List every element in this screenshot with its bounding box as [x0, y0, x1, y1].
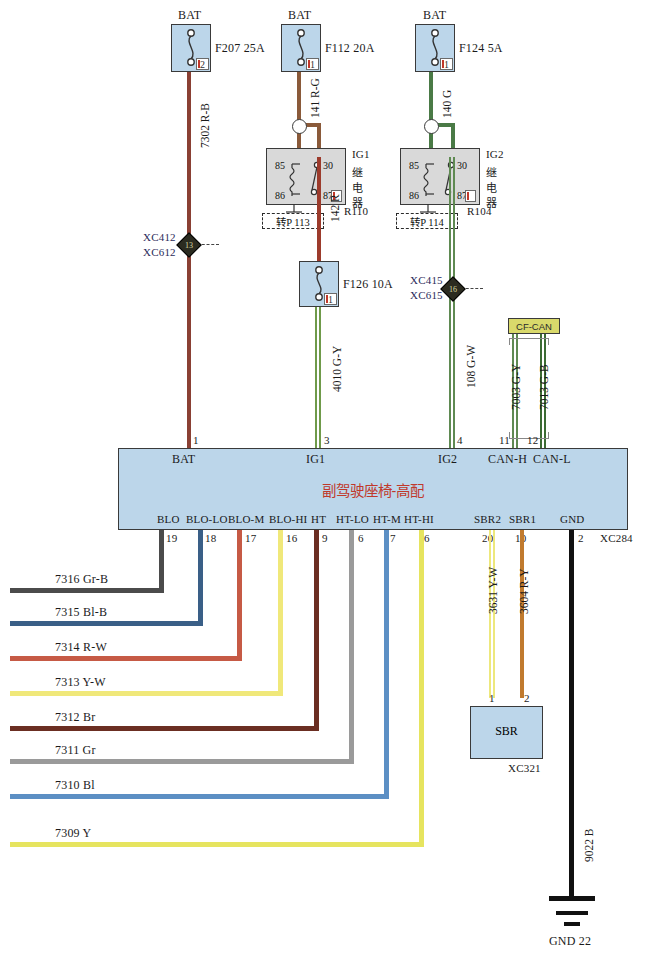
top-signal-CAN-L: CAN-L	[533, 452, 571, 467]
relay-IG1-id: R110	[344, 205, 368, 217]
wire-108-label: 108 G-W	[465, 345, 477, 388]
wire-4010-label: 4010 G-Y	[331, 346, 343, 392]
can-twist-bracket-top	[509, 338, 549, 345]
bottom-signal-BLO-M: BLO-M	[228, 513, 264, 525]
relay-IG1-name: IG1	[352, 148, 370, 160]
wire-7310-horiz	[10, 794, 389, 799]
fuse-3-source: BAT	[423, 8, 446, 23]
svg-text:86: 86	[409, 190, 419, 201]
wire-3604	[520, 530, 524, 698]
splice-1-bottom-label: XC612	[143, 246, 176, 258]
can-bus-box[interactable]: CF-CAN	[508, 318, 560, 334]
fuse-F207-pin: 2	[200, 59, 205, 70]
wire-7313-horiz	[10, 691, 283, 696]
relay-IG2-ref: 转P 114	[410, 214, 443, 229]
bottom-signal-SBR2: SBR2	[474, 513, 501, 525]
wiring-diagram-canvas: BAT 2 F207 25A 7302 R-B XC412 XC612 13 B…	[0, 0, 646, 955]
fuse-F124-pin: 1	[444, 59, 449, 70]
bottom-pin-17: 17	[245, 532, 256, 544]
wire-7302-label: 7302 R-B	[199, 103, 211, 148]
bottom-pin-HTHI: 6	[424, 532, 430, 544]
splice-2-diamond[interactable]: 16	[440, 276, 465, 301]
bottom-signal-SBR1: SBR1	[509, 513, 536, 525]
wire-4010-a	[315, 307, 317, 448]
ground-bar-1	[549, 896, 595, 901]
bottom-signal-HT-HI: HT-HI	[404, 513, 434, 525]
module-connector-id: XC284	[600, 532, 633, 544]
bottom-pin-HTM: 7	[390, 532, 396, 544]
sbr-pin-1-number: 1	[489, 692, 495, 704]
wire-7316-label: 7316 Gr-B	[55, 572, 108, 587]
wire-7313-label: 7313 Y-W	[55, 675, 106, 690]
top-pin-4-number: 4	[457, 434, 463, 446]
top-signal-IG1: IG1	[306, 452, 325, 467]
bottom-pin-16: 16	[286, 532, 297, 544]
bottom-pin-HTLO: 6	[358, 532, 364, 544]
wire-140-G-vertical	[429, 72, 433, 157]
sbr-module-label: SBR	[470, 724, 543, 739]
wire-7315-label: 7315 Bl-B	[55, 605, 107, 620]
top-signal-BAT: BAT	[172, 452, 195, 467]
wire-7312-label: 7312 Br	[55, 710, 95, 725]
wire-7302-R-B	[187, 72, 191, 448]
top-signal-CAN-H: CAN-H	[488, 452, 527, 467]
bottom-signal-BLO: BLO	[157, 513, 180, 525]
top-pin-12-number: 12	[527, 434, 538, 446]
wire-140-label: 140 G	[441, 90, 453, 118]
bottom-signal-BLO-LO: BLO-LO	[186, 513, 228, 525]
fuse-F112-label: F112 20A	[325, 41, 375, 56]
fuse-F124-label: F124 5A	[459, 41, 503, 56]
splice-2-top-label: XC415	[410, 274, 443, 286]
wire-7309-vert	[419, 530, 424, 847]
relay-IG2-id: R104	[467, 205, 492, 217]
svg-text:86: 86	[275, 190, 285, 201]
relay-IG1-ref: 转P 113	[276, 214, 309, 229]
bottom-signal-HT: HT	[311, 513, 326, 525]
relay-IG2-cn-2: 电	[486, 179, 497, 195]
sbr-pin-2-number: 2	[524, 692, 530, 704]
svg-text:30: 30	[457, 160, 467, 171]
bottom-signal-HT-LO: HT-LO	[336, 513, 369, 525]
svg-text:30: 30	[323, 160, 333, 171]
splice-1-diamond[interactable]: 13	[176, 232, 201, 257]
fuse-F207-label: F207 25A	[215, 41, 265, 56]
ground-bar-2	[556, 911, 588, 915]
ground-label: GND 22	[549, 934, 591, 949]
bottom-pin-18: 18	[205, 532, 216, 544]
wire-3631-label: 3631 Y-W	[487, 567, 499, 614]
bottom-signal-HT-M: HT-M	[373, 513, 401, 525]
bottom-signal-BLO-HI: BLO-HI	[269, 513, 307, 525]
module-title: 副驾驶座椅-高配	[118, 479, 628, 500]
wire-9022-B	[569, 530, 574, 900]
fuse-2-source: BAT	[288, 8, 311, 23]
splice-1-number: 13	[181, 237, 197, 253]
relay-IG2-name: IG2	[486, 148, 504, 160]
wire-7310-vert	[384, 530, 389, 799]
relay-IG2-cn-1: 继	[486, 164, 497, 180]
can-bus-label: CF-CAN	[516, 321, 552, 332]
relay-IG1-cn-2: 电	[352, 179, 363, 195]
wire-7315-horiz	[10, 621, 203, 626]
wire-4010-b	[319, 307, 321, 448]
top-signal-IG2: IG2	[438, 452, 457, 467]
wire-7013-label: 7013 G-B	[538, 364, 550, 410]
bottom-pin-2: 2	[578, 532, 584, 544]
wire-141-R-G-vertical	[297, 72, 301, 157]
wire-7311-horiz	[10, 759, 354, 764]
top-pin-11-number: 11	[499, 434, 510, 446]
bottom-pin-9: 9	[322, 532, 328, 544]
wire-7316-vert	[159, 530, 164, 593]
relay-IG2-pin-box	[465, 190, 476, 202]
splice-node-141	[292, 119, 307, 134]
wire-7310-label: 7310 Bl	[55, 778, 95, 793]
wire-7312-horiz	[10, 726, 319, 731]
wire-141-label: 141 R-G	[309, 78, 321, 118]
splice-2-bottom-label: XC615	[410, 289, 443, 301]
wire-108-b	[453, 157, 455, 448]
relay-IG1-ref-box[interactable]: 转P 113	[262, 213, 324, 229]
splice-1-top-label: XC412	[143, 231, 176, 243]
bottom-signal-GND: GND	[560, 513, 584, 525]
fuse-F126-pin: 1	[328, 294, 333, 305]
top-pin-1-number: 1	[193, 434, 199, 446]
fuse-F126-label: F126 10A	[343, 277, 393, 292]
